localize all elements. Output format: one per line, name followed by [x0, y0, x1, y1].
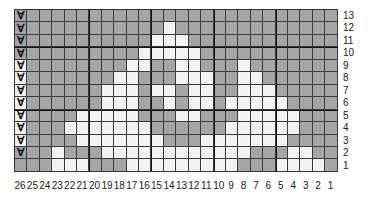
chart-cell — [114, 110, 126, 122]
column-label: 18 — [113, 180, 125, 191]
chart-cell — [226, 10, 238, 22]
chart-cell — [300, 122, 312, 134]
chart-cell — [251, 60, 263, 72]
chart-cell — [176, 22, 188, 34]
chart-cell — [40, 10, 52, 22]
chart-cell — [77, 10, 89, 22]
arrow-up-icon: Ɐ — [17, 85, 25, 96]
chart-cell — [77, 85, 89, 97]
chart-cell — [77, 97, 89, 109]
chart-cell — [300, 60, 312, 72]
chart-cell — [164, 122, 176, 134]
chart-cell — [238, 97, 250, 109]
chart-cell — [102, 10, 114, 22]
chart-cell — [89, 22, 101, 34]
arrow-up-icon: Ɐ — [17, 97, 25, 108]
chart-cell — [288, 110, 300, 122]
chart-cell — [189, 72, 201, 84]
chart-cell — [276, 47, 288, 59]
chart-cell — [52, 97, 64, 109]
chart-cell — [164, 135, 176, 147]
chart-cell — [52, 60, 64, 72]
chart-cell — [114, 122, 126, 134]
chart-cell — [114, 72, 126, 84]
chart-cell — [52, 135, 64, 147]
chart-cell — [238, 47, 250, 59]
row-label: 13 — [343, 10, 354, 21]
chart-cell — [276, 22, 288, 34]
chart-cell — [226, 47, 238, 59]
chart-cell — [127, 47, 139, 59]
chart-cell — [40, 60, 52, 72]
column-label: 20 — [89, 180, 101, 191]
chart-cell — [300, 72, 312, 84]
chart-cell — [114, 135, 126, 147]
chart-cell — [89, 122, 101, 134]
chart-cell — [263, 85, 275, 97]
chart-cell — [238, 10, 250, 22]
chart-cell — [89, 35, 101, 47]
chart-cell — [176, 72, 188, 84]
chart-cell — [27, 72, 39, 84]
chart-cell — [201, 110, 213, 122]
column-label: 10 — [213, 180, 225, 191]
chart-cell — [164, 72, 176, 84]
chart-cell — [27, 135, 39, 147]
chart-cell — [214, 97, 226, 109]
chart-cell — [52, 47, 64, 59]
chart-cell — [139, 47, 151, 59]
chart-cell — [77, 147, 89, 159]
chart-cell — [300, 110, 312, 122]
column-label: 17 — [126, 180, 138, 191]
chart-cell — [238, 110, 250, 122]
chart-cell — [189, 110, 201, 122]
chart-cell — [189, 10, 201, 22]
column-label: 11 — [200, 180, 212, 191]
arrow-cell: Ɐ — [15, 110, 27, 122]
arrow-up-icon: Ɐ — [17, 122, 25, 133]
chart-cell — [40, 72, 52, 84]
chart-cell — [102, 97, 114, 109]
column-label: 23 — [51, 180, 63, 191]
chart-cell — [65, 47, 77, 59]
chart-cell — [201, 122, 213, 134]
chart-cell — [114, 60, 126, 72]
chart-cell — [263, 60, 275, 72]
chart-cell — [325, 85, 337, 97]
chart-cell — [102, 159, 114, 171]
chart-cell — [251, 135, 263, 147]
chart-cell — [288, 122, 300, 134]
chart-cell — [176, 110, 188, 122]
column-label: 19 — [101, 180, 113, 191]
chart-cell — [201, 10, 213, 22]
chart-cell — [263, 22, 275, 34]
chart-cell — [238, 60, 250, 72]
row-label: 11 — [343, 35, 353, 46]
chart-cell — [27, 35, 39, 47]
chart-cell — [214, 72, 226, 84]
chart-cell — [201, 72, 213, 84]
chart-cell — [89, 110, 101, 122]
chart-cell — [214, 10, 226, 22]
chart-cell — [214, 159, 226, 171]
arrow-up-icon: Ɐ — [17, 147, 25, 158]
arrow-cell: Ɐ — [15, 135, 27, 147]
chart-cell — [139, 85, 151, 97]
chart-cell — [102, 85, 114, 97]
chart-cell — [27, 47, 39, 59]
chart-cell — [300, 22, 312, 34]
chart-cell — [263, 97, 275, 109]
arrow-cell: Ɐ — [15, 22, 27, 34]
chart-cell — [65, 110, 77, 122]
chart-cell — [325, 110, 337, 122]
chart-cell — [214, 110, 226, 122]
chart-cell — [114, 85, 126, 97]
chart-cell — [102, 135, 114, 147]
chart-cell — [300, 85, 312, 97]
chart-cell — [251, 10, 263, 22]
chart-cell — [89, 72, 101, 84]
chart-cell — [114, 22, 126, 34]
chart-cell — [40, 135, 52, 147]
chart-cell — [139, 147, 151, 159]
chart-cell — [176, 60, 188, 72]
